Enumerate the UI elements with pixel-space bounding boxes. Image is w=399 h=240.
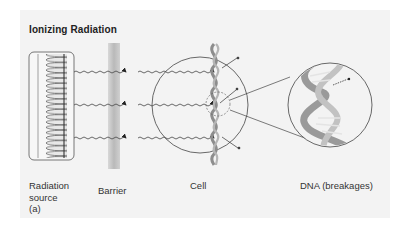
dna-breakage-icon (288, 56, 372, 156)
radiation-rays (74, 71, 214, 139)
ray-1 (74, 71, 214, 73)
figure-title: Ionizing Radiation (29, 24, 117, 35)
cell-label: Cell (190, 180, 206, 192)
panel-label: (a) (29, 203, 41, 215)
radiation-source-label: Radiation source (29, 180, 69, 204)
barrier-icon (108, 43, 120, 169)
dna-label: DNA (breakages) (300, 180, 373, 192)
radiation-source-icon (29, 52, 74, 160)
cell-icon (152, 44, 310, 165)
ray-3 (74, 137, 214, 139)
radiation-source-label-line1: Radiation (29, 180, 69, 192)
barrier-label: Barrier (98, 185, 127, 197)
ray-2 (74, 104, 214, 106)
